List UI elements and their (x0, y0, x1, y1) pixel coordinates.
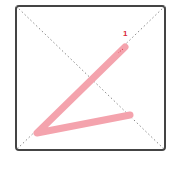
stroke-number-label: 1 (123, 30, 127, 38)
stroke-1 (37, 47, 130, 133)
stroke-order-diagram: 1 (0, 0, 178, 169)
character-canvas (0, 0, 178, 169)
